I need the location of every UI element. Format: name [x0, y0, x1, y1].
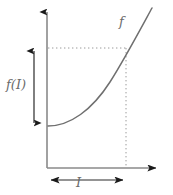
function-curve	[48, 8, 152, 126]
curve-label: f	[119, 15, 124, 28]
figure-canvas	[0, 0, 173, 195]
x-span-label: I	[76, 176, 81, 189]
function-graph-figure: f(I) f I	[0, 0, 173, 195]
y-span-label: f(I)	[6, 78, 26, 91]
